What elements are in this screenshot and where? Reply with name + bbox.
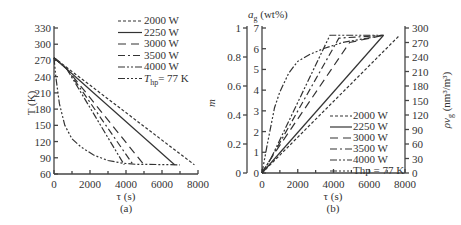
b-x-tick-label: 2000 — [287, 178, 310, 190]
b-m-label: m — [205, 99, 217, 107]
chart-a: 6090120150180210240270300330020004000600… — [25, 14, 210, 215]
a-y-tick-label: 240 — [35, 71, 52, 83]
b-panel-label: (b) — [327, 202, 340, 215]
a-y-tick-label: 60 — [40, 168, 52, 180]
b-x-tick-label: 4000 — [323, 178, 346, 190]
b-rho-tick-label: 60 — [412, 138, 424, 150]
b-x-tick-label: 6000 — [358, 178, 381, 190]
a-legend-label: 2000 W — [144, 14, 180, 26]
b-ag-tick-label: 2 — [254, 126, 260, 138]
b-ag-tick-label: 3 — [254, 105, 260, 117]
a-legend-label: Thp= 77 K — [144, 72, 189, 87]
b-m-tick-label: 0.8 — [227, 51, 241, 63]
a-legend-label: 3500 W — [144, 49, 180, 61]
a-y-tick-label: 270 — [35, 54, 52, 66]
a-legend-label: 2250 W — [144, 26, 180, 38]
b-rho-tick-label: 90 — [412, 124, 424, 136]
b-rho-tick-label: 120 — [412, 109, 429, 121]
b-ag-tick-label: 5 — [254, 63, 260, 75]
b-rho-tick-label: 180 — [412, 80, 429, 92]
b-rho-tick-label: 300 — [412, 22, 429, 34]
b-ag-tick-label: 4 — [254, 84, 260, 96]
b-rho-tick-label: 210 — [412, 66, 429, 78]
b-rho-label: ρvg (nm³/m³) — [440, 71, 455, 129]
b-ag-label: ag (wt%) — [248, 8, 288, 23]
b-legend-label: Thp = 77 K — [353, 164, 404, 176]
b-m-tick-label: 0.6 — [227, 80, 241, 92]
b-x-tick-label: 8000 — [394, 178, 417, 190]
a-panel-label: (a) — [120, 202, 133, 215]
b-m-tick-label: 0.2 — [227, 138, 241, 150]
a-legend-label: 4000 W — [144, 60, 180, 72]
b-m-tick-label: 0.4 — [227, 109, 241, 121]
b-rho-tick-label: 30 — [412, 153, 424, 165]
a-x-tick-label: 8000 — [187, 178, 210, 190]
b-ag-tick-label: 7 — [254, 22, 260, 34]
b-rho-tick-label: 270 — [412, 37, 429, 49]
b-rho-sym: ρv — [440, 118, 452, 129]
a-y-tick-label: 90 — [40, 152, 52, 164]
a-curve — [54, 58, 175, 165]
a-y-label: T (K) — [25, 90, 38, 115]
figure: 6090120150180210240270300330020004000600… — [0, 0, 461, 225]
a-ticks: 6090120150180210240270300330020004000600… — [35, 22, 210, 190]
a-curve — [54, 58, 133, 165]
a-legend-label: 3000 W — [144, 37, 180, 49]
chart-b: 00.20.40.60.8101234567030609012015018021… — [205, 8, 455, 215]
a-y-tick-label: 120 — [35, 136, 52, 148]
a-y-tick-label: 210 — [35, 87, 52, 99]
b-rho-unit: (nm³/m³) — [440, 71, 453, 114]
a-y-tick-label: 330 — [35, 22, 52, 34]
b-m-tick-label: 0 — [236, 167, 242, 179]
a-x-tick-label: 4000 — [115, 178, 138, 190]
a-x-tick-label: 0 — [51, 178, 57, 190]
b-ag-tick-label: 6 — [254, 43, 260, 55]
a-y-tick-label: 180 — [35, 103, 52, 115]
b-ag-tick-label: 1 — [254, 146, 260, 158]
a-legend: 2000 W2250 W3000 W3500 W4000 WThp= 77 K — [118, 14, 189, 87]
a-y-tick-label: 300 — [35, 38, 52, 50]
b-ag-unit: (wt%) — [258, 8, 289, 21]
b-legend: 2000 W2250 W3000 W3500 W4000 WThp = 77 K — [330, 109, 404, 176]
a-y-tick-label: 150 — [35, 119, 52, 131]
a-x-tick-label: 2000 — [79, 178, 102, 190]
a-curve — [54, 58, 144, 165]
b-m-tick-label: 1 — [236, 22, 242, 34]
a-x-tick-label: 6000 — [151, 178, 174, 190]
b-rho-tick-label: 150 — [412, 95, 429, 107]
b-rho-tick-label: 240 — [412, 51, 429, 63]
b-x-tick-label: 0 — [259, 178, 265, 190]
